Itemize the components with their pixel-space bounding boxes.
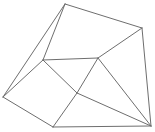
edge-top-top-right xyxy=(65,4,142,28)
edge-left-bottom-left xyxy=(3,97,53,127)
edge-inner-right-bottom-right xyxy=(98,58,151,126)
edge-inner-right-inner-bottom xyxy=(77,58,98,93)
edge-top-right-inner-right xyxy=(98,28,142,58)
edge-inner-left-inner-bottom xyxy=(43,60,77,93)
edge-group xyxy=(3,4,151,127)
edge-bottom-left-bottom-right xyxy=(53,126,151,127)
edge-top-left xyxy=(3,4,65,97)
edge-inner-left-inner-right xyxy=(43,58,98,60)
graph-diagram xyxy=(0,0,155,132)
edge-inner-left-left xyxy=(3,60,43,97)
edge-bottom-left-inner-bottom xyxy=(53,93,77,127)
edge-top-right-bottom-right xyxy=(142,28,151,126)
edge-inner-bottom-bottom-right xyxy=(77,93,151,126)
